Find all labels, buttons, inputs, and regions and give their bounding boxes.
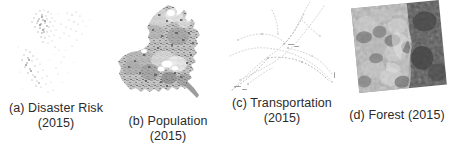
map-image-forest [346,0,454,102]
caption-population: (b) Population (2015) [112,114,224,143]
caption-disaster-risk: (a) Disaster Risk (2015) [0,101,112,130]
map-image-population [114,2,222,102]
panel-disaster-risk: (a) Disaster Risk (2015) [0,0,112,144]
figure-container: (a) Disaster Risk (2015) [0,0,454,144]
map-image-transportation [228,0,340,94]
caption-line-2: (2015) [112,129,224,144]
caption-line-2: (2015) [0,116,112,131]
map-image-disaster-risk [6,2,108,98]
forest-raster-tile [351,0,447,93]
panel-forest: (d) Forest (2015) [340,0,454,144]
panel-transportation: (c) Transportation (2015) [224,0,340,144]
panel-population: (b) Population (2015) [112,0,224,144]
population-choropleth-map [114,2,222,102]
caption-line-2: (2015) [224,111,340,126]
caption-transportation: (c) Transportation (2015) [224,96,340,125]
caption-line-1: (c) Transportation [232,96,332,110]
caption-forest: (d) Forest (2015) [340,108,454,123]
caption-line-1: (b) Population [128,114,207,128]
caption-line-1: (a) Disaster Risk [9,101,103,115]
caption-line-1: (d) Forest (2015) [349,108,444,122]
forest-raster-content [351,0,447,93]
disaster-risk-point-map [6,2,108,98]
transportation-network-map [228,0,340,94]
